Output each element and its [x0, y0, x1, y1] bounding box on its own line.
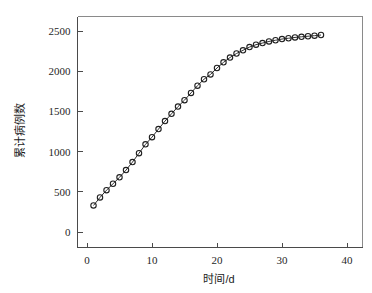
y-tick-label: 2000: [49, 65, 72, 77]
cumulative-cases-line-chart: 05001000150020002500 010203040 时间/d 累计病例…: [0, 0, 372, 293]
x-axis-title: 时间/d: [203, 273, 234, 285]
data-point-marker: [97, 195, 102, 200]
x-tick-label: 40: [342, 254, 354, 266]
data-point-marker: [234, 51, 239, 56]
data-point-marker: [188, 90, 193, 95]
data-point-marker: [104, 187, 109, 192]
data-point-marker: [214, 65, 219, 70]
x-tick-label: 0: [84, 254, 90, 266]
data-point-marker: [130, 159, 135, 164]
data-point-marker: [312, 33, 317, 38]
data-point-marker: [266, 39, 271, 44]
data-point-marker: [201, 77, 206, 82]
data-point-marker: [123, 167, 128, 172]
data-point-marker: [156, 126, 161, 131]
y-tick-label: 1000: [49, 146, 72, 158]
data-point-marker: [240, 48, 245, 53]
data-point-marker: [149, 134, 154, 139]
data-point-marker: [286, 36, 291, 41]
data-point-marker: [292, 35, 297, 40]
data-point-marker: [318, 32, 323, 37]
y-tick-label: 500: [54, 186, 71, 198]
data-point-marker: [143, 142, 148, 147]
data-point-marker: [227, 55, 232, 60]
data-point-marker: [110, 181, 115, 186]
data-point-marker: [182, 97, 187, 102]
data-point-marker: [253, 42, 258, 47]
data-point-marker: [273, 38, 278, 43]
data-point-marker: [299, 34, 304, 39]
chart-figure: 05001000150020002500 010203040 时间/d 累计病例…: [0, 0, 372, 293]
y-tick-label: 2500: [49, 25, 72, 37]
data-point-marker: [117, 175, 122, 180]
data-point-marker: [175, 104, 180, 109]
data-point-marker: [169, 111, 174, 116]
data-point-marker: [208, 72, 213, 77]
data-point-marker: [260, 40, 265, 45]
data-point-marker: [136, 151, 141, 156]
data-point-marker: [279, 36, 284, 41]
data-point-marker: [195, 83, 200, 88]
y-tick-label: 0: [65, 226, 71, 238]
data-point-marker: [91, 203, 96, 208]
x-tick-label: 10: [147, 254, 159, 266]
y-tick-label: 1500: [49, 105, 72, 117]
data-point-marker: [247, 44, 252, 49]
x-tick-label: 20: [212, 254, 224, 266]
y-axis-title: 累计病例数: [13, 103, 26, 158]
x-tick-label: 30: [277, 254, 289, 266]
data-point-marker: [221, 60, 226, 65]
data-point-marker: [162, 118, 167, 123]
data-point-marker: [305, 34, 310, 39]
